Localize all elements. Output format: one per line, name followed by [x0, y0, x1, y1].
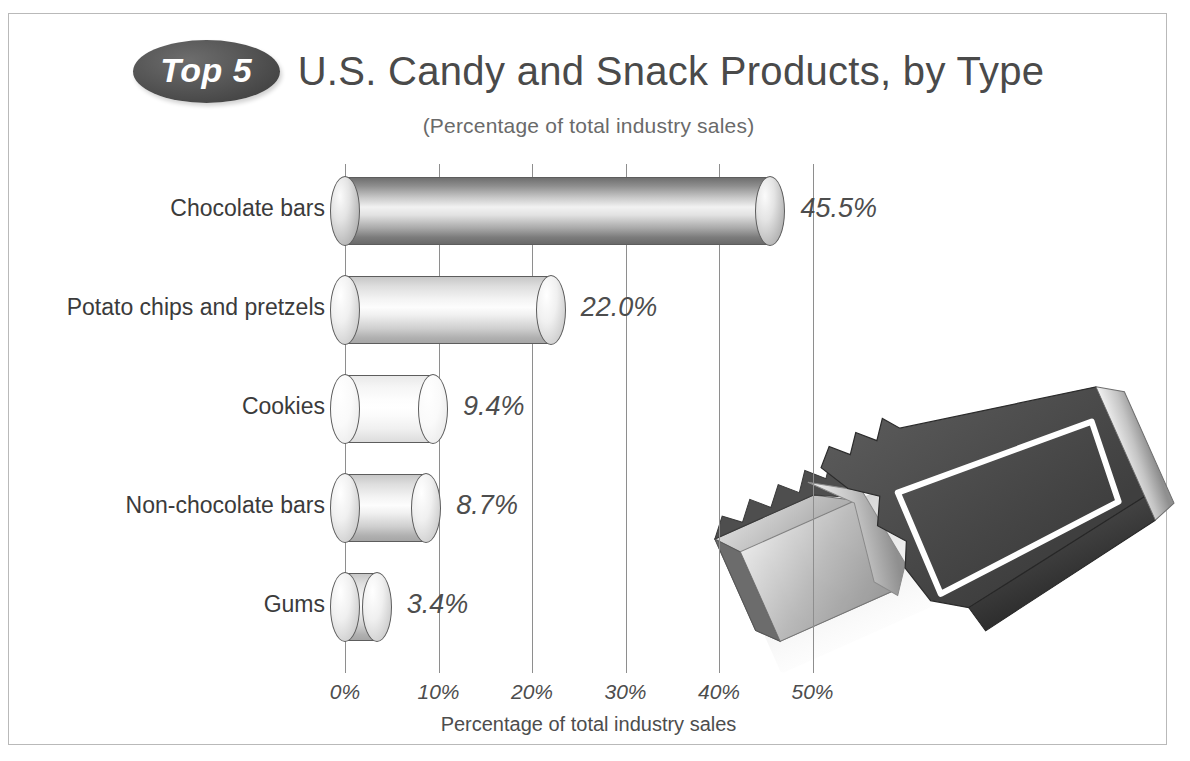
bar-cap-right [536, 275, 566, 345]
bar-cap-left [330, 572, 360, 642]
top5-badge: Top 5 [133, 40, 280, 103]
top5-badge-label: Top 5 [160, 51, 252, 90]
x-tick-label: 30% [586, 680, 666, 704]
bar [345, 573, 377, 641]
gridline-50pct [813, 164, 814, 673]
candy-bar-label-outline [896, 409, 1131, 594]
x-tick-label: 40% [679, 680, 759, 704]
bar-value-label: 45.5% [800, 193, 877, 224]
category-label: Gums [0, 591, 325, 618]
category-label: Non-chocolate bars [0, 492, 325, 519]
bar-cap-left [330, 473, 360, 543]
bar-cap-right [755, 176, 785, 246]
bar [345, 177, 770, 245]
bar-cap-right [411, 473, 441, 543]
category-label: Chocolate bars [0, 195, 325, 222]
bar [345, 276, 551, 344]
bar-cap-left [330, 275, 360, 345]
chart-title: U.S. Candy and Snack Products, by Type [298, 49, 1045, 94]
category-label: Cookies [0, 393, 325, 420]
bar-value-label: 22.0% [581, 292, 658, 323]
bar-cap-right [418, 374, 448, 444]
bar-value-label: 9.4% [463, 391, 525, 422]
bar-value-label: 8.7% [456, 490, 518, 521]
chart-subtitle: (Percentage of total industry sales) [9, 114, 1168, 138]
bar-cap-left [330, 176, 360, 246]
bar-cap-right [362, 572, 392, 642]
bar-value-label: 3.4% [407, 589, 469, 620]
chart-page: Top 5 U.S. Candy and Snack Products, by … [0, 0, 1190, 761]
x-tick-label: 50% [773, 680, 853, 704]
chart-frame: Top 5 U.S. Candy and Snack Products, by … [8, 13, 1167, 745]
candy-bar-wrapper [813, 352, 1185, 665]
x-tick-label: 10% [399, 680, 479, 704]
bar [345, 375, 433, 443]
x-axis-title: Percentage of total industry sales [9, 713, 1168, 736]
x-tick-label: 0% [305, 680, 385, 704]
bar-body [345, 276, 551, 344]
bar-cap-left [330, 374, 360, 444]
plot-area: 0%10%20%30%40%50% 45.5%22.0%9.4%8.7%3.4% [345, 164, 825, 673]
category-label: Potato chips and pretzels [0, 294, 325, 321]
bar-body [345, 177, 770, 245]
chart-header: Top 5 U.S. Candy and Snack Products, by … [9, 36, 1168, 106]
x-tick-label: 20% [492, 680, 572, 704]
bar [345, 474, 426, 542]
